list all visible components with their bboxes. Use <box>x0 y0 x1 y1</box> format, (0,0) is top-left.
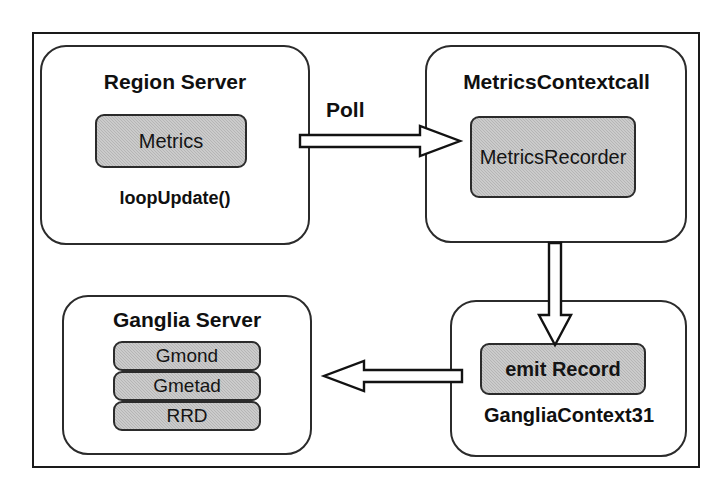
metrics-recorder-line-2: Recorder <box>544 146 626 168</box>
edge-label-poll: Poll <box>326 98 365 122</box>
node-gmetad-block[interactable]: Gmetad <box>113 371 261 401</box>
node-metrics-recorder-block[interactable]: Metrics Recorder <box>470 116 636 198</box>
arrow-poll-right-icon <box>300 125 475 157</box>
node-emit-record-block[interactable]: emit Record <box>480 343 646 395</box>
node-ganglia-server-title: Ganglia Server <box>62 308 312 332</box>
arrow-record-down-icon <box>535 243 575 349</box>
node-region-server-title: Region Server <box>40 70 310 94</box>
node-rrd-block[interactable]: RRD <box>113 401 261 431</box>
metrics-recorder-line-1: Metrics <box>480 146 544 168</box>
node-metricscontextcall-title: MetricsContextcall <box>419 70 694 94</box>
diagram-canvas: Region Server Metrics loopUpdate() Metri… <box>0 0 724 495</box>
node-metrics-block[interactable]: Metrics <box>95 114 247 168</box>
arrow-publish-left-icon <box>322 360 462 392</box>
node-gangliacontext31-title: GangliaContext31 <box>443 404 695 427</box>
node-region-server-method-label: loopUpdate() <box>40 188 310 209</box>
node-gmond-block[interactable]: Gmond <box>113 341 261 371</box>
